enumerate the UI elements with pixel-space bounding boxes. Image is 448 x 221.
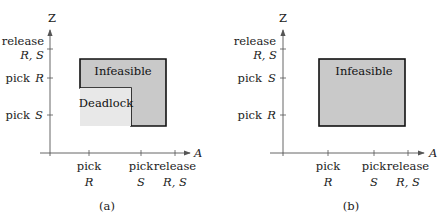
y-tick-pick-s-sub-b: S <box>268 71 276 85</box>
diagram-canvas: Infeasible Deadlock Z A release R, S pic… <box>0 0 448 221</box>
x-tick-pick-s-sub-a: S <box>137 175 145 189</box>
infeasible-label-a: Infeasible <box>94 64 151 78</box>
x-axis-label-a: A <box>193 146 202 160</box>
y-axis-label-b: Z <box>279 11 287 25</box>
deadlock-label-a: Deadlock <box>79 96 134 110</box>
y-tick-pick-r-a: pick <box>6 71 31 85</box>
y-tick-pick-r-sub-a: R <box>34 71 44 85</box>
x-tick-pick-s-b: pick <box>362 159 387 173</box>
x-tick-pick-s-sub-b: S <box>370 175 378 189</box>
y-axis-label-a: Z <box>48 11 56 25</box>
x-axis-label-b: A <box>428 146 437 160</box>
x-tick-release-sub-a: R, S <box>162 175 187 189</box>
x-tick-pick-s-a: pick <box>129 159 154 173</box>
panel-a: Infeasible Deadlock Z A release R, S pic… <box>2 11 203 213</box>
x-tick-release-a: release <box>154 159 197 173</box>
y-tick-pick-s-b: pick <box>238 71 263 85</box>
y-tick-pick-r-b: pick <box>238 108 263 122</box>
y-tick-release-sub-b: R, S <box>252 48 277 62</box>
x-tick-release-sub-b: R, S <box>395 175 420 189</box>
y-tick-pick-s-a: pick <box>6 108 31 122</box>
x-tick-pick-r-sub-b: R <box>323 175 333 189</box>
panel-b: Infeasible Z A release R, S pick S pick … <box>234 11 438 213</box>
infeasible-label-b: Infeasible <box>335 64 392 78</box>
y-tick-release-b: release <box>234 34 277 48</box>
caption-a: (a) <box>99 199 115 213</box>
y-tick-pick-s-sub-a: S <box>35 108 43 122</box>
y-tick-release-a: release <box>2 34 45 48</box>
y-tick-pick-r-sub-b: R <box>266 108 276 122</box>
x-tick-pick-r-b: pick <box>316 159 341 173</box>
caption-b: (b) <box>343 199 359 213</box>
x-tick-release-b: release <box>387 159 430 173</box>
y-tick-release-sub-a: R, S <box>19 48 44 62</box>
x-tick-pick-r-a: pick <box>77 159 102 173</box>
x-tick-pick-r-sub-a: R <box>84 175 94 189</box>
